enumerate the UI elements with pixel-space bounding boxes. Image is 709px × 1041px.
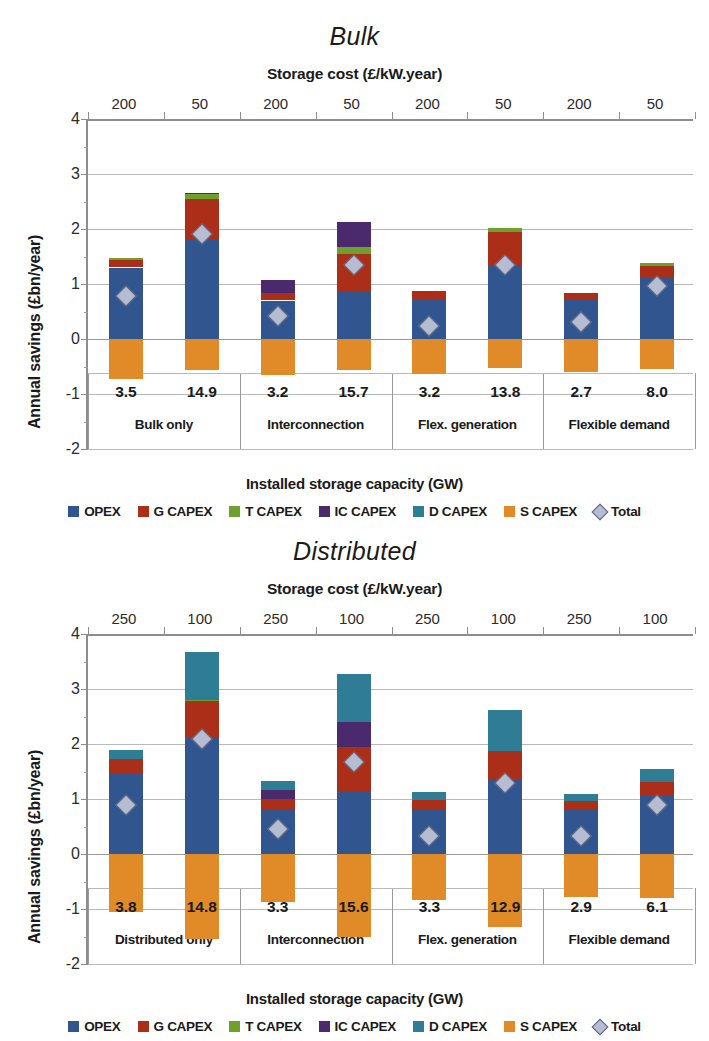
- top-axis-line: [88, 119, 693, 121]
- storage-cost-tick-label: 250: [397, 610, 457, 627]
- x-tick-mark: [240, 112, 241, 119]
- legend-item[interactable]: T CAPEX: [229, 504, 301, 519]
- legend-item[interactable]: T CAPEX: [229, 1019, 301, 1034]
- y-tick-mark: [81, 909, 88, 910]
- top-tick-row-distributed: 250100250100250100250100: [0, 610, 709, 634]
- capacity-value-label: 14.9: [165, 383, 239, 401]
- chart-title-distributed: Distributed: [0, 537, 709, 566]
- chart-panel-bulk: Bulk Storage cost (£/kW.year) 2005020050…: [0, 0, 709, 519]
- gridline: [88, 174, 693, 175]
- storage-cost-tick-label: 100: [170, 610, 230, 627]
- legend-item[interactable]: OPEX: [68, 1019, 120, 1034]
- legend-distributed: OPEXG CAPEXT CAPEXIC CAPEXD CAPEXS CAPEX…: [0, 1019, 709, 1034]
- x-tick-mark: [695, 112, 696, 119]
- gridline: [88, 339, 693, 340]
- gridline: [88, 689, 693, 690]
- legend-diamond-icon: [592, 503, 609, 520]
- group-band-top-line: [88, 373, 693, 374]
- top-axis-title-distributed: Storage cost (£/kW.year): [0, 580, 709, 598]
- bar-segment-opex: [337, 791, 371, 854]
- legend-item[interactable]: Total: [594, 504, 641, 519]
- legend-item[interactable]: OPEX: [68, 504, 120, 519]
- legend-item[interactable]: S CAPEX: [504, 1019, 577, 1034]
- x-tick-mark: [240, 627, 241, 634]
- bar-segment-t-capex: [109, 258, 143, 260]
- bar-segment-s-capex: [337, 854, 371, 937]
- bar-segment-g-capex: [412, 800, 446, 810]
- storage-cost-tick-label: 50: [322, 95, 382, 112]
- legend-item[interactable]: IC CAPEX: [319, 1019, 396, 1034]
- bar-segment-t-capex: [185, 194, 219, 198]
- legend-swatch-icon: [319, 1021, 330, 1032]
- group-band-top-line: [88, 888, 693, 889]
- legend-swatch-icon: [68, 1021, 79, 1032]
- capacity-value-label: 3.2: [392, 383, 466, 401]
- y-minor-tick: [84, 202, 88, 203]
- storage-cost-tick-label: 250: [246, 610, 306, 627]
- legend-swatch-icon: [229, 506, 240, 517]
- legend-item[interactable]: Total: [594, 1019, 641, 1034]
- legend-label: D CAPEX: [429, 504, 487, 519]
- legend-item[interactable]: G CAPEX: [138, 1019, 213, 1034]
- legend-item[interactable]: D CAPEX: [413, 1019, 487, 1034]
- y-axis-label-bulk: Annual savings (£bn/year): [26, 235, 44, 429]
- y-minor-tick: [84, 257, 88, 258]
- x-tick-mark: [467, 112, 468, 119]
- bar-segment-g-capex: [412, 291, 446, 300]
- bar-segment-s-capex: [488, 339, 522, 368]
- legend-item[interactable]: D CAPEX: [413, 504, 487, 519]
- bar-segment-t-capex: [185, 700, 219, 701]
- y-tick-label: -2: [66, 440, 80, 458]
- legend-diamond-icon: [592, 1018, 609, 1035]
- storage-cost-tick-label: 200: [549, 95, 609, 112]
- y-tick-label: 1: [71, 275, 80, 293]
- group-separator: [695, 373, 696, 449]
- storage-cost-tick-label: 50: [625, 95, 685, 112]
- legend-label: G CAPEX: [154, 504, 213, 519]
- bar-segment-g-capex: [261, 799, 295, 809]
- y-tick-label: 3: [71, 165, 80, 183]
- y-tick-mark: [81, 634, 88, 635]
- y-minor-tick: [84, 312, 88, 313]
- bar-segment-s-capex: [640, 854, 674, 898]
- legend-item[interactable]: S CAPEX: [504, 504, 577, 519]
- legend-swatch-icon: [68, 506, 79, 517]
- bar-segment-s-capex: [337, 339, 371, 370]
- legend-item[interactable]: IC CAPEX: [319, 504, 396, 519]
- x-tick-mark: [467, 627, 468, 634]
- storage-cost-tick-label: 100: [322, 610, 382, 627]
- legend-label: IC CAPEX: [335, 1019, 396, 1034]
- y-tick-label: -1: [66, 900, 80, 918]
- bar-segment-s-capex: [185, 339, 219, 370]
- top-axis-line: [88, 634, 693, 636]
- legend-swatch-icon: [229, 1021, 240, 1032]
- bar-segment-s-capex: [564, 854, 598, 897]
- legend-label: T CAPEX: [245, 1019, 301, 1034]
- y-tick-mark: [81, 229, 88, 230]
- x-tick-mark: [164, 112, 165, 119]
- y-tick-mark: [81, 339, 88, 340]
- y-tick-mark: [81, 284, 88, 285]
- bar-segment-ic-capex: [261, 280, 295, 294]
- storage-cost-tick-label: 50: [170, 95, 230, 112]
- bar-segment-s-capex: [564, 339, 598, 372]
- capacity-value-label: 14.8: [165, 898, 239, 916]
- storage-cost-tick-label: 250: [94, 610, 154, 627]
- bar-segment-d-capex: [488, 710, 522, 751]
- capacity-value-label: 15.7: [317, 383, 391, 401]
- y-tick-mark: [81, 119, 88, 120]
- plot-area-distributed: 43210-1-2Distributed onlyInterconnection…: [86, 634, 693, 964]
- legend-item[interactable]: G CAPEX: [138, 504, 213, 519]
- x-tick-mark: [619, 112, 620, 119]
- capacity-value-label: 12.9: [468, 898, 542, 916]
- capacity-value-label: 3.8: [89, 898, 163, 916]
- capacity-value-label: 13.8: [468, 383, 542, 401]
- gridline: [88, 799, 693, 800]
- bar-segment-s-capex: [185, 854, 219, 939]
- y-tick-mark: [81, 449, 88, 450]
- legend-label: S CAPEX: [520, 504, 577, 519]
- bar-segment-t-capex: [640, 263, 674, 266]
- figure-page: Bulk Storage cost (£/kW.year) 2005020050…: [0, 0, 709, 1041]
- legend-swatch-icon: [138, 506, 149, 517]
- x-tick-mark: [543, 112, 544, 119]
